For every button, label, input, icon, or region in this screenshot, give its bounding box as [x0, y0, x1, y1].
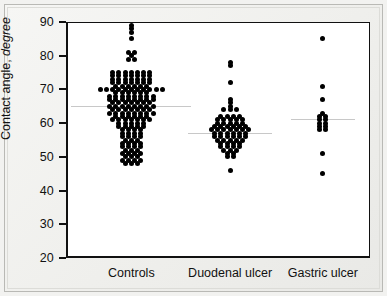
data-point [123, 161, 128, 166]
y-axis-tick-mark [59, 55, 66, 57]
figure-container: 2030405060708090 Contact angle, degree C… [0, 0, 387, 296]
y-axis-tick-label: 80 [40, 49, 54, 63]
y-axis-tick-mark [59, 21, 66, 23]
y-axis-title-unit: degree [0, 17, 13, 56]
data-point [126, 57, 131, 62]
data-point [160, 87, 165, 92]
data-point [132, 57, 137, 62]
data-point [154, 87, 159, 92]
data-point [320, 151, 325, 156]
data-point [320, 84, 325, 89]
x-axis-category-label: Controls [108, 266, 155, 280]
y-axis-tick-label: 30 [40, 217, 54, 231]
y-axis-tick-label: 50 [40, 150, 54, 164]
y-axis-tick-label: 70 [40, 82, 54, 96]
y-axis-title: Contact angle, degree [0, 17, 13, 140]
data-point [151, 111, 156, 116]
y-axis-tick-label: 90 [40, 15, 54, 29]
y-axis-tick-label: 40 [40, 184, 54, 198]
data-point [221, 107, 226, 112]
y-axis-tick-mark [59, 190, 66, 192]
y-axis-tick-mark [59, 223, 66, 225]
y-axis-tick-mark [59, 88, 66, 90]
data-point [225, 154, 230, 159]
data-point [129, 30, 134, 35]
data-point [104, 87, 109, 92]
data-point [228, 107, 233, 112]
data-point [110, 117, 115, 122]
data-point [129, 36, 134, 41]
plot-data-area [66, 22, 370, 258]
x-axis-category-label: Gastric ulcer [288, 266, 358, 280]
y-axis-tick-mark [59, 156, 66, 158]
data-point [98, 87, 103, 92]
data-point [320, 171, 325, 176]
y-axis-title-main: Contact angle, [0, 56, 13, 140]
data-point [317, 127, 322, 132]
data-point [231, 154, 236, 159]
data-point [107, 111, 112, 116]
data-point [234, 107, 239, 112]
data-point [228, 168, 233, 173]
data-point [323, 127, 328, 132]
y-axis-tick-label: 60 [40, 116, 54, 130]
x-axis-category-label: Duodenal ulcer [188, 266, 272, 280]
data-point [320, 36, 325, 41]
y-axis-tick-mark [59, 122, 66, 124]
data-point [320, 97, 325, 102]
y-axis-tick-label: 20 [40, 251, 54, 265]
y-axis-tick-mark [59, 257, 66, 259]
data-point [228, 80, 233, 85]
data-point [135, 161, 140, 166]
data-point [129, 161, 134, 166]
data-point [147, 117, 152, 122]
data-point [228, 63, 233, 68]
